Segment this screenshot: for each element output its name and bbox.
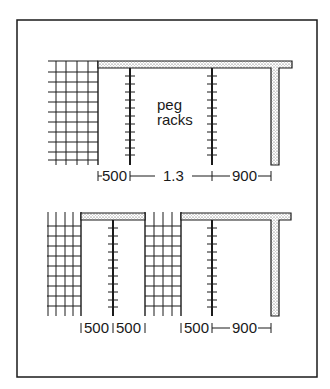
dim-bottom-500-c: 500 [184,319,209,336]
grid-shelving-left [47,212,81,316]
peg-rack-left [125,68,135,165]
dim-bottom-500-b: 500 [116,319,141,336]
grid-shelving-middle [145,212,181,316]
wall-top [181,213,291,316]
peg-rack-diagram: peg racks 500 1.3 900 [0,0,330,389]
bottom-plan: 500 500 500 900 [47,212,291,336]
peg-rack-1 [108,220,118,316]
dim-top-500: 500 [102,167,127,184]
dim-bottom-500-a: 500 [84,319,109,336]
wall-segment-left [81,213,145,220]
top-plan: peg racks 500 1.3 900 [48,61,292,184]
dim-top-900: 900 [232,167,257,184]
grid-shelving [48,61,98,165]
peg-rack-right [207,68,217,165]
peg-rack-2 [207,220,217,316]
dim-bottom-900: 900 [232,319,257,336]
peg-racks-label-line2: racks [157,111,193,128]
dim-top-1-3: 1.3 [163,167,184,184]
wall-top [98,61,292,165]
